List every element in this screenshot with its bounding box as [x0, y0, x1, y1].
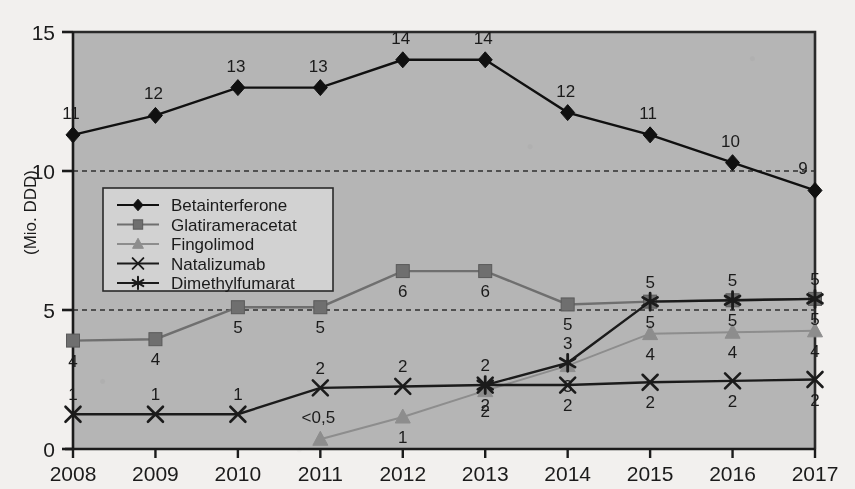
data-label: 2 [316, 359, 325, 378]
data-point-marker [396, 265, 409, 278]
x-axis-tick-label: 2016 [709, 462, 756, 485]
data-label: 2 [728, 392, 737, 411]
data-label: 6 [480, 282, 489, 301]
legend-item-label: Natalizumab [171, 255, 266, 274]
data-point-marker [231, 301, 244, 314]
data-point-marker [314, 301, 327, 314]
legend-item-label: Betainterferone [171, 196, 287, 215]
data-label: 5 [645, 273, 654, 292]
data-label: 5 [810, 310, 819, 329]
x-axis-tick-label: 2011 [298, 462, 343, 485]
data-label: 2 [398, 357, 407, 376]
data-point-marker [67, 334, 80, 347]
y-axis-tick-label: 5 [43, 299, 55, 322]
data-label: 5 [645, 313, 654, 332]
data-label: 5 [728, 311, 737, 330]
data-label: 4 [645, 345, 654, 364]
y-axis-tick-label: 0 [43, 438, 55, 461]
data-label: 2 [645, 393, 654, 412]
legend-item-label: Dimethylfumarat [171, 274, 295, 293]
data-point-marker [133, 220, 142, 229]
data-point-marker [479, 265, 492, 278]
x-axis-tick-label: 2013 [462, 462, 509, 485]
data-label: 11 [639, 104, 657, 123]
data-label: 4 [151, 350, 160, 369]
legend-item-label: Fingolimod [171, 235, 254, 254]
data-label: 2 [563, 396, 572, 415]
y-axis-tick-label: 15 [32, 21, 55, 44]
data-label: 2 [810, 391, 819, 410]
x-axis-tick-label: 2012 [379, 462, 426, 485]
data-label: 4 [728, 343, 737, 362]
data-point-marker [561, 298, 574, 311]
x-axis-tick-label: 2009 [132, 462, 179, 485]
x-axis-tick-label: 2014 [544, 462, 591, 485]
data-label: 1 [68, 385, 77, 404]
data-label: 2 [480, 356, 489, 375]
data-label: 13 [226, 57, 245, 76]
legend: BetainterferoneGlatirameracetatFingolimo… [103, 188, 333, 293]
data-label: 12 [144, 84, 163, 103]
data-label: 11 [62, 104, 80, 123]
data-label: 4 [68, 352, 77, 371]
data-label: 1 [233, 385, 242, 404]
data-label: 13 [309, 57, 328, 76]
data-label: 14 [391, 29, 410, 48]
data-label: 12 [556, 82, 575, 101]
data-label: 1 [151, 385, 160, 404]
data-label: 2 [480, 396, 489, 415]
data-label: <0,5 [302, 408, 336, 427]
x-axis-tick-label: 2008 [50, 462, 97, 485]
data-label: 5 [316, 318, 325, 337]
data-label: 5 [728, 271, 737, 290]
x-axis-tick-label: 2017 [792, 462, 839, 485]
data-label: 1 [398, 428, 407, 447]
data-label: 4 [810, 342, 819, 361]
data-label: 5 [563, 315, 572, 334]
legend-item-label: Glatirameracetat [171, 216, 297, 235]
data-label: 6 [398, 282, 407, 301]
data-point-marker [149, 333, 162, 346]
x-axis-tick-label: 2015 [627, 462, 674, 485]
data-label: 3 [563, 334, 572, 353]
line-chart: 0510152008200920102011201220132014201520… [0, 0, 855, 489]
data-label: 10 [721, 132, 740, 151]
data-label: 5 [233, 318, 242, 337]
chart-container: 0510152008200920102011201220132014201520… [0, 0, 855, 489]
data-label: 5 [810, 270, 819, 289]
x-axis-tick-label: 2010 [215, 462, 262, 485]
y-axis-title: (Mio. DDD) [21, 170, 40, 255]
data-label: 9 [798, 159, 807, 178]
data-label: 3 [563, 377, 572, 396]
data-label: 14 [474, 29, 493, 48]
